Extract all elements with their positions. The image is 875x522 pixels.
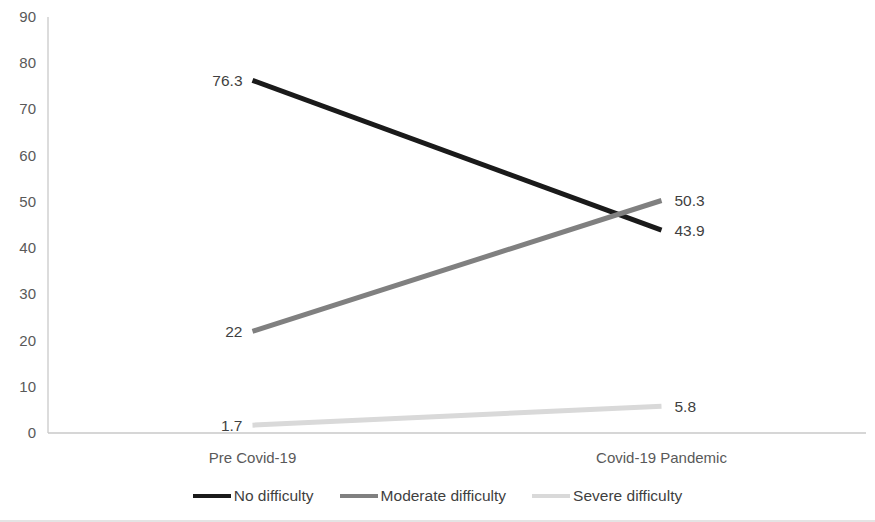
legend-item-moderate-difficulty: Moderate difficulty (340, 487, 507, 505)
data-label-severe-difficulty-0: 1.7 (221, 417, 243, 434)
x-category-label-pre-covid-19: Pre Covid-19 (209, 449, 297, 466)
data-label-no-difficulty-0: 76.3 (212, 72, 242, 89)
y-tick-label-30: 30 (19, 285, 36, 302)
legend-item-severe-difficulty: Severe difficulty (532, 487, 682, 505)
legend-label-severe-difficulty: Severe difficulty (573, 487, 682, 505)
legend-label-no-difficulty: No difficulty (234, 487, 314, 505)
y-tick-label-60: 60 (19, 147, 36, 164)
data-label-moderate-difficulty-0: 22 (225, 323, 242, 340)
y-tick-label-20: 20 (19, 332, 36, 349)
x-category-label-covid-19-pandemic: Covid-19 Pandemic (596, 449, 727, 466)
y-tick-label-40: 40 (19, 239, 36, 256)
line-chart: 010203040506070809076.343.92250.31.75.8P… (0, 0, 875, 522)
series-line-severe-difficulty (253, 406, 662, 425)
y-tick-label-90: 90 (19, 8, 36, 25)
plot-area: 010203040506070809076.343.92250.31.75.8P… (0, 0, 875, 480)
y-tick-label-10: 10 (19, 378, 36, 395)
legend: No difficultyModerate difficultySevere d… (0, 487, 875, 505)
legend-swatch-moderate-difficulty (340, 494, 378, 499)
legend-item-no-difficulty: No difficulty (193, 487, 314, 505)
series-line-no-difficulty (253, 80, 662, 230)
data-label-moderate-difficulty-1: 50.3 (675, 192, 705, 209)
y-tick-label-80: 80 (19, 54, 36, 71)
legend-swatch-severe-difficulty (532, 494, 570, 499)
data-label-no-difficulty-1: 43.9 (675, 222, 705, 239)
legend-swatch-no-difficulty (193, 494, 231, 499)
y-tick-label-50: 50 (19, 193, 36, 210)
data-label-severe-difficulty-1: 5.8 (675, 398, 697, 415)
legend-label-moderate-difficulty: Moderate difficulty (381, 487, 507, 505)
y-tick-label-0: 0 (28, 424, 36, 441)
y-tick-label-70: 70 (19, 100, 36, 117)
series-line-moderate-difficulty (253, 201, 662, 332)
